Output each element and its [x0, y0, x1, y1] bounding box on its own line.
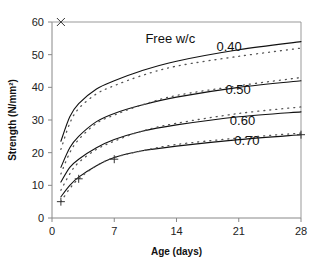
dotted-curve [61, 133, 301, 202]
x-tick-label: 14 [170, 225, 182, 237]
plus-marker [57, 198, 65, 206]
strength-vs-age-chart: 010203040506007142128Age (days)Strength … [0, 0, 319, 272]
dotted-curve [61, 48, 301, 149]
curve-label: 0.70 [234, 133, 259, 148]
x-tick-label: 0 [49, 225, 55, 237]
y-tick-label: 50 [32, 49, 44, 61]
x-axis-title: Age (days) [151, 246, 202, 257]
y-tick-label: 20 [32, 147, 44, 159]
y-tick-label: 0 [38, 212, 44, 224]
x-tick-label: 28 [295, 225, 307, 237]
x-tick-label: 21 [233, 225, 245, 237]
curve-label: Free w/c [145, 31, 195, 46]
plus-marker [297, 131, 305, 139]
x-tick-label: 7 [111, 225, 117, 237]
y-tick-label: 10 [32, 179, 44, 191]
y-tick-label: 40 [32, 81, 44, 93]
series-group [61, 42, 301, 202]
solid-curve [61, 42, 301, 142]
y-axis-title: Strength (N/mm²) [7, 79, 18, 161]
curve-label: 0.50 [225, 82, 250, 97]
axes: 010203040506007142128Age (days)Strength … [7, 16, 307, 257]
curve-label: 0.40 [217, 39, 242, 54]
curve-label: 0.60 [230, 113, 255, 128]
y-tick-label: 30 [32, 114, 44, 126]
dotted-curve [61, 78, 301, 174]
dotted-curve [61, 107, 301, 190]
y-tick-label: 60 [32, 16, 44, 28]
